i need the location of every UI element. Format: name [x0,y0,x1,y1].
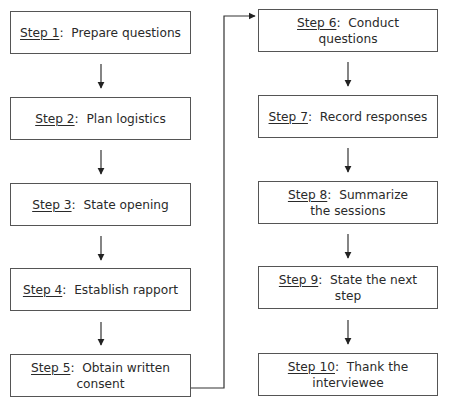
step-8-label: Step 8 [288,188,327,202]
step-7-box: Step 7: Record responses [258,95,438,138]
separator: : [335,360,339,374]
step-3-text: State opening [83,198,168,212]
step-5-label: Step 5 [31,361,70,375]
step-2-label: Step 2 [35,112,74,126]
step-4-box: Step 4: Establish rapport [10,268,191,311]
step-5-box: Step 5: Obtain written consent [10,354,191,397]
step-10-box: Step 10: Thank the interviewee [258,353,438,396]
step-5-text: Obtain written consent [76,361,170,391]
separator: : [75,112,79,126]
step-9-box: Step 9: State the next step [258,266,438,309]
separator: : [59,26,63,40]
step-4-label: Step 4 [23,283,62,297]
separator: : [336,16,340,30]
step-10-label: Step 10 [288,360,335,374]
step-9-text: State the next step [330,273,417,303]
step-6-box: Step 6: Conduct questions [258,9,438,52]
separator: : [72,198,76,212]
arrow-step5-to-step6 [191,16,255,388]
step-1-box: Step 1: Prepare questions [10,11,191,54]
step-2-box: Step 2: Plan logistics [10,97,191,140]
step-3-label: Step 3 [32,198,71,212]
separator: : [62,283,66,297]
step-3-box: Step 3: State opening [10,183,191,226]
separator: : [318,273,322,287]
step-7-label: Step 7 [269,110,308,124]
separator: : [70,361,74,375]
step-4-text: Establish rapport [74,283,178,297]
separator: : [327,188,331,202]
separator: : [308,110,312,124]
step-9-label: Step 9 [279,273,318,287]
step-1-text: Prepare questions [71,26,181,40]
step-8-box: Step 8: Summarize the sessions [258,181,438,224]
step-7-text: Record responses [320,110,428,124]
step-2-text: Plan logistics [86,112,165,126]
step-1-label: Step 1 [20,26,59,40]
step-6-label: Step 6 [297,16,336,30]
